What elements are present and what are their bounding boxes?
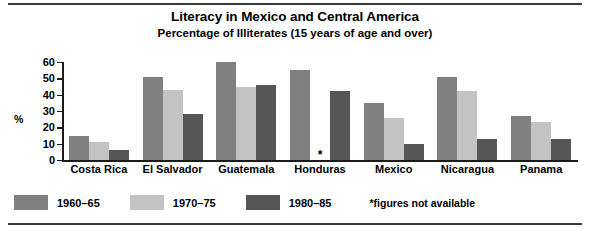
y-tick-label: 10 — [43, 138, 55, 150]
legend-label: 1980–85 — [289, 197, 332, 209]
legend-item: 1970–75 — [130, 195, 216, 210]
bar — [364, 103, 384, 160]
missing-data-asterisk: * — [310, 151, 330, 159]
chart-figure: Literacy in Mexico and Central America P… — [0, 0, 590, 229]
y-tick-label: 20 — [43, 121, 55, 133]
x-axis-category-label: Nicaragua — [431, 163, 505, 175]
legend-swatch — [14, 195, 48, 210]
x-axis-category-label: Panama — [504, 163, 578, 175]
bar-group — [357, 62, 431, 160]
bar — [330, 91, 350, 160]
x-axis-category-label: Costa Rica — [62, 163, 136, 175]
bar-group — [431, 62, 505, 160]
bar — [216, 62, 236, 160]
legend-label: 1970–75 — [173, 197, 216, 209]
legend-items: 1960–651970–751980–85 — [14, 195, 361, 210]
bar — [531, 122, 551, 160]
chart-title: Literacy in Mexico and Central America — [0, 9, 590, 24]
bar — [511, 116, 531, 160]
bar-group — [62, 62, 136, 160]
bar-group: * — [283, 62, 357, 160]
bar — [143, 77, 163, 160]
chart-subtitle: Percentage of Illiterates (15 years of a… — [0, 27, 590, 39]
bar — [437, 77, 457, 160]
bar-group — [504, 62, 578, 160]
bar-group — [136, 62, 210, 160]
bar — [69, 136, 89, 161]
chart-legend: 1960–651970–751980–85 *figures not avail… — [14, 195, 475, 210]
bar-groups: * — [62, 62, 578, 160]
bar-group — [209, 62, 283, 160]
bar — [236, 87, 256, 161]
bar — [163, 90, 183, 160]
legend-label: 1960–65 — [57, 197, 100, 209]
y-tick-label: 0 — [49, 154, 55, 166]
x-axis-category-label: Mexico — [357, 163, 431, 175]
bar — [457, 91, 477, 160]
legend-swatch — [130, 195, 164, 210]
bar — [89, 142, 109, 160]
legend-item: 1980–85 — [246, 195, 332, 210]
y-axis-label: % — [14, 113, 23, 125]
plot-area: 0102030405060 * — [62, 62, 578, 160]
y-tick-label: 50 — [43, 72, 55, 84]
y-tick-label: 40 — [43, 89, 55, 101]
legend-swatch — [246, 195, 280, 210]
y-tick-label: 30 — [43, 105, 55, 117]
bar — [183, 114, 203, 160]
x-axis-category-label: Guatemala — [209, 163, 283, 175]
footnote-text: *figures not available — [369, 197, 475, 209]
x-axis-category-labels: Costa RicaEl SalvadorGuatemalaHondurasMe… — [62, 163, 578, 175]
x-axis-category-label: Honduras — [283, 163, 357, 175]
bar — [256, 85, 276, 160]
bar — [384, 118, 404, 160]
y-tick-label: 60 — [43, 56, 55, 68]
bar — [404, 144, 424, 160]
top-divider — [8, 3, 582, 5]
bar — [109, 150, 129, 160]
x-axis-category-label: El Salvador — [136, 163, 210, 175]
bar — [477, 139, 497, 160]
bar — [290, 70, 310, 160]
bottom-divider — [8, 223, 582, 225]
bar — [551, 139, 571, 160]
y-tick-mark — [57, 160, 62, 161]
legend-item: 1960–65 — [14, 195, 100, 210]
